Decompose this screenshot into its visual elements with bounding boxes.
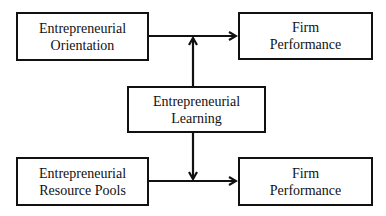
node-label-line1: Firm bbox=[292, 165, 319, 182]
node-label-line2: Performance bbox=[270, 182, 342, 199]
node-label-line2: Resource Pools bbox=[39, 182, 126, 199]
node-label-line2: Orientation bbox=[51, 37, 115, 54]
node-entrepreneurial-orientation: Entrepreneurial Orientation bbox=[16, 12, 149, 61]
node-label-line1: Entrepreneurial bbox=[153, 93, 240, 110]
node-label-line1: Entrepreneurial bbox=[39, 20, 126, 37]
node-label-line1: Firm bbox=[292, 19, 319, 36]
node-firm-performance-bottom: Firm Performance bbox=[238, 157, 373, 206]
node-firm-performance-top: Firm Performance bbox=[238, 12, 373, 60]
node-label-line2: Learning bbox=[171, 110, 222, 127]
node-entrepreneurial-resource-pools: Entrepreneurial Resource Pools bbox=[16, 157, 149, 206]
node-label-line2: Performance bbox=[270, 36, 342, 53]
node-entrepreneurial-learning: Entrepreneurial Learning bbox=[127, 86, 266, 133]
node-label-line1: Entrepreneurial bbox=[39, 165, 126, 182]
